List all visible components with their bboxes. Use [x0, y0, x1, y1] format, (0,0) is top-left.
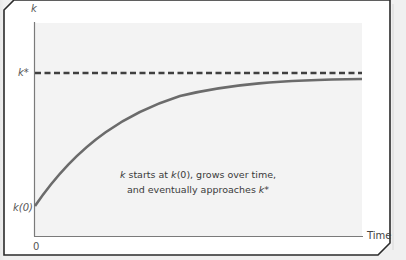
plot-area: [35, 23, 362, 236]
k-zero-label: k(0): [13, 202, 33, 214]
x-origin-label: 0: [33, 241, 39, 253]
annot-text-a: starts at: [125, 169, 171, 180]
k-star-label: k*: [18, 67, 29, 79]
annotation-text: k starts at k(0), grows over time, and e…: [110, 167, 286, 197]
annot-text-c: and eventually approaches: [127, 184, 259, 195]
annotation-line-2: and eventually approaches k*: [110, 182, 286, 197]
x-axis-label: Time: [367, 230, 391, 242]
chart-figure: k k* k(0) 0 Time k starts at k(0), grows…: [0, 0, 406, 260]
annotation-line-1: k starts at k(0), grows over time,: [110, 167, 286, 182]
chart-svg: [0, 0, 406, 260]
k-zero-k: k(0): [13, 202, 33, 213]
annot-text-b: (0), grows over time,: [177, 169, 276, 180]
y-axis-label: k: [31, 3, 37, 15]
annot-kstar: k*: [259, 184, 269, 195]
